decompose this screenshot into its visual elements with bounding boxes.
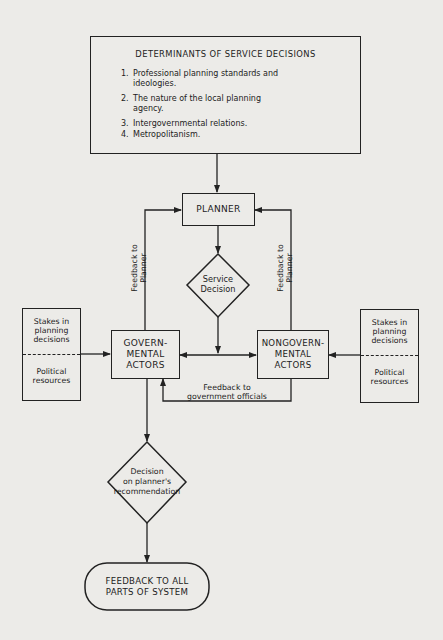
- stakes-label: Stakes in planning decisions: [23, 317, 80, 344]
- service-decision-label-line2: Decision: [188, 284, 248, 294]
- service-decision-label-line1: Service: [188, 274, 248, 284]
- divider-dashed: [23, 354, 80, 355]
- determinants-box: DETERMINANTS OF SERVICE DECISIONS 1.Prof…: [90, 36, 361, 154]
- determinant-item: 3.Intergovernmental relations.: [121, 119, 298, 129]
- determinant-item: 2.The nature of the local planning agenc…: [121, 94, 298, 114]
- determinant-item: 4.Metropolitanism.: [121, 130, 298, 140]
- political-resources-label: Political resources: [361, 368, 418, 386]
- stakes-box-right: Stakes in planning decisions Political r…: [360, 309, 419, 403]
- political-resources-label: Political resources: [23, 367, 80, 385]
- determinants-list: 1.Professional planning standards and id…: [121, 69, 298, 145]
- feedback-to-all-node: FEEDBACK TO ALL PARTS OF SYSTEM: [85, 563, 209, 610]
- feedback-to-government-label: Feedback to government officials: [172, 383, 282, 401]
- feedback-to-planner-left-label: Feedback to Planner: [130, 238, 150, 298]
- stakes-box-left: Stakes in planning decisions Political r…: [22, 308, 81, 401]
- nongovernmental-actors-node: NONGOVERN- MENTAL ACTORS: [257, 330, 329, 379]
- stakes-label: Stakes in planning decisions: [361, 318, 418, 345]
- determinants-title: DETERMINANTS OF SERVICE DECISIONS: [91, 49, 360, 59]
- decision-node: Decision on planner's recommendation: [107, 467, 187, 497]
- planner-node: PLANNER: [182, 193, 255, 226]
- divider-dashed: [361, 355, 418, 356]
- governmental-actors-node: GOVERN- MENTAL ACTORS: [111, 330, 180, 379]
- service-decision-node: Service Decision: [188, 274, 248, 294]
- determinant-item: 1.Professional planning standards and id…: [121, 69, 298, 89]
- feedback-to-planner-right-label: Feedback to Planner: [276, 238, 296, 298]
